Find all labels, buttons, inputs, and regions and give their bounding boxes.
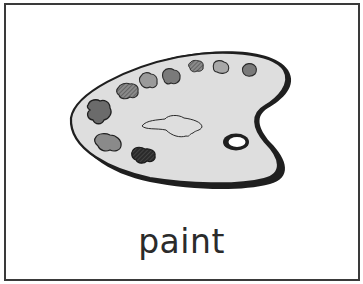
paint-blob	[117, 83, 139, 99]
paint-blob	[140, 73, 158, 88]
card-word: paint	[0, 222, 363, 262]
thumb-hole-inner	[229, 137, 246, 147]
paint-blob	[213, 61, 229, 74]
paint-blob	[243, 64, 257, 77]
paint-blob	[163, 69, 181, 84]
paint-blob	[189, 60, 204, 71]
